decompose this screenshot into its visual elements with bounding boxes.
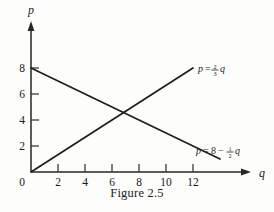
y-tick-label-6: 6 <box>19 88 25 100</box>
demand-eq-equals: = <box>203 145 209 156</box>
supply-eq-lhs: p <box>197 63 203 74</box>
y-tick-label-8: 8 <box>19 62 25 74</box>
demand-line <box>31 68 220 159</box>
figure-container: 2 4 6 8 0 2 4 6 8 10 12 p q p = 2 3 q p <box>0 0 274 212</box>
y-axis-arrowhead <box>28 21 35 31</box>
y-axis-label: p <box>27 3 34 17</box>
figure-caption: Figure 2.5 <box>0 186 274 201</box>
supply-eq-variable: q <box>220 63 225 74</box>
y-axis <box>28 21 35 172</box>
y-tick-label-4: 4 <box>19 114 25 126</box>
supply-eq-equals: = <box>205 63 211 74</box>
demand-eq-denominator: 2 <box>228 152 231 159</box>
x-axis-label: q <box>259 166 265 180</box>
x-tick-label-12: 12 <box>187 176 199 186</box>
demand-eq-constant: 8 <box>211 145 216 156</box>
supply-demand-chart: 2 4 6 8 0 2 4 6 8 10 12 p q p = 2 3 q p <box>0 0 274 186</box>
x-tick-label-10: 10 <box>160 176 172 186</box>
x-tick-label-4: 4 <box>82 176 88 186</box>
x-tick-label-8: 8 <box>136 176 142 186</box>
x-axis <box>31 169 251 176</box>
y-tick-label-2: 2 <box>19 140 25 152</box>
demand-eq-variable: q <box>235 145 240 156</box>
x-tick-label-6: 6 <box>109 176 115 186</box>
supply-line <box>31 68 193 172</box>
demand-eq-lhs: p <box>195 145 201 156</box>
demand-eq-numerator: 1 <box>228 145 231 152</box>
demand-eq-minus: − <box>218 145 224 156</box>
y-axis-ticks <box>31 68 39 146</box>
x-axis-arrowhead <box>241 169 251 176</box>
supply-eq-numerator: 2 <box>213 63 216 70</box>
supply-eq-denominator: 3 <box>213 70 216 77</box>
x-tick-label-2: 2 <box>55 176 61 186</box>
origin-label: 0 <box>19 176 25 186</box>
demand-equation-label: p = 8 − 1 2 q <box>195 145 240 160</box>
supply-equation-label: p = 2 3 q <box>197 63 225 78</box>
x-axis-ticks <box>58 164 193 172</box>
